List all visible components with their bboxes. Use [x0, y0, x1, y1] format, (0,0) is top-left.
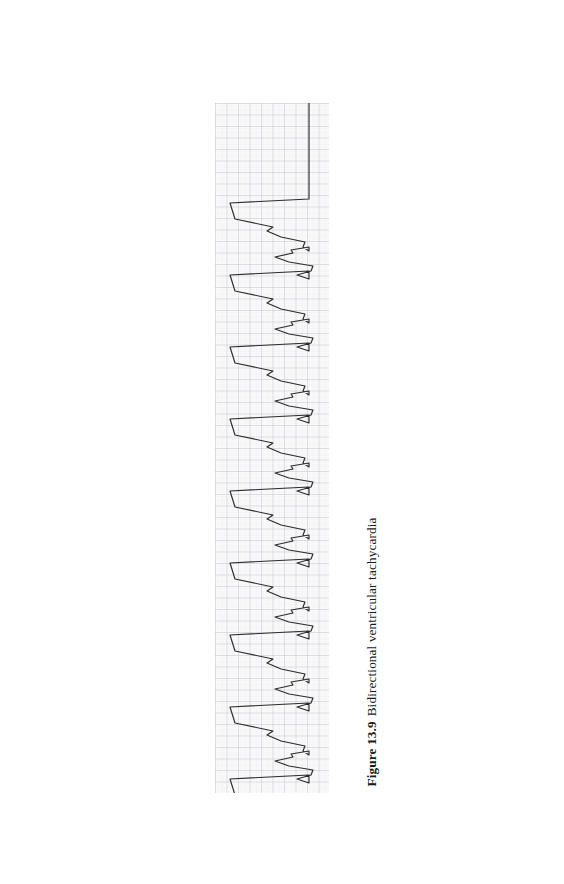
ecg-rhythm-strip	[215, 103, 329, 793]
figure-caption-label: Figure 13.9	[364, 721, 379, 786]
figure-caption: Figure 13.9Bidirectional ventricular tac…	[364, 517, 380, 786]
figure-page: Figure 13.9Bidirectional ventricular tac…	[0, 0, 564, 884]
ecg-waveform	[215, 103, 329, 793]
figure-caption-text: Bidirectional ventricular tachycardia	[364, 517, 379, 716]
